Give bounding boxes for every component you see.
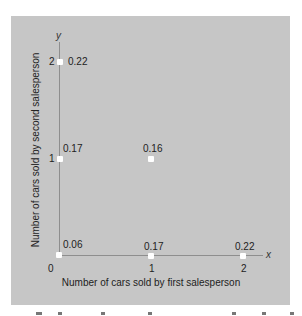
data-point-1-0	[148, 253, 154, 259]
data-point-1-1	[148, 156, 154, 162]
x-tick-1: 1	[149, 263, 155, 274]
data-point-0-1	[57, 156, 63, 162]
point-label-0-0: 0.06	[63, 239, 82, 250]
data-point-0-0	[56, 252, 62, 258]
point-label-0-2: 0.22	[68, 56, 87, 67]
y-tick-2: 2	[49, 56, 55, 67]
x-axis-letter: x	[266, 249, 271, 260]
x-axis-title: Number of cars sold by first salesperson	[0, 277, 302, 288]
point-label-0-1: 0.17	[63, 143, 82, 154]
y-axis-title: Number of cars sold by second salesperso…	[30, 53, 41, 248]
data-point-2-0	[240, 253, 246, 259]
data-point-0-2	[57, 59, 63, 65]
y-tick-1: 1	[49, 153, 55, 164]
cropped-caption-fragment	[0, 312, 302, 316]
x-axis-line	[59, 255, 263, 256]
x-tick-0: 0	[48, 263, 54, 274]
point-label-1-1: 0.16	[143, 143, 162, 154]
x-tick-2: 2	[241, 263, 247, 274]
y-axis-line	[59, 42, 60, 256]
point-label-2-0: 0.22	[235, 241, 254, 252]
point-label-1-0: 0.17	[144, 241, 163, 252]
y-axis-letter: y	[56, 30, 61, 41]
